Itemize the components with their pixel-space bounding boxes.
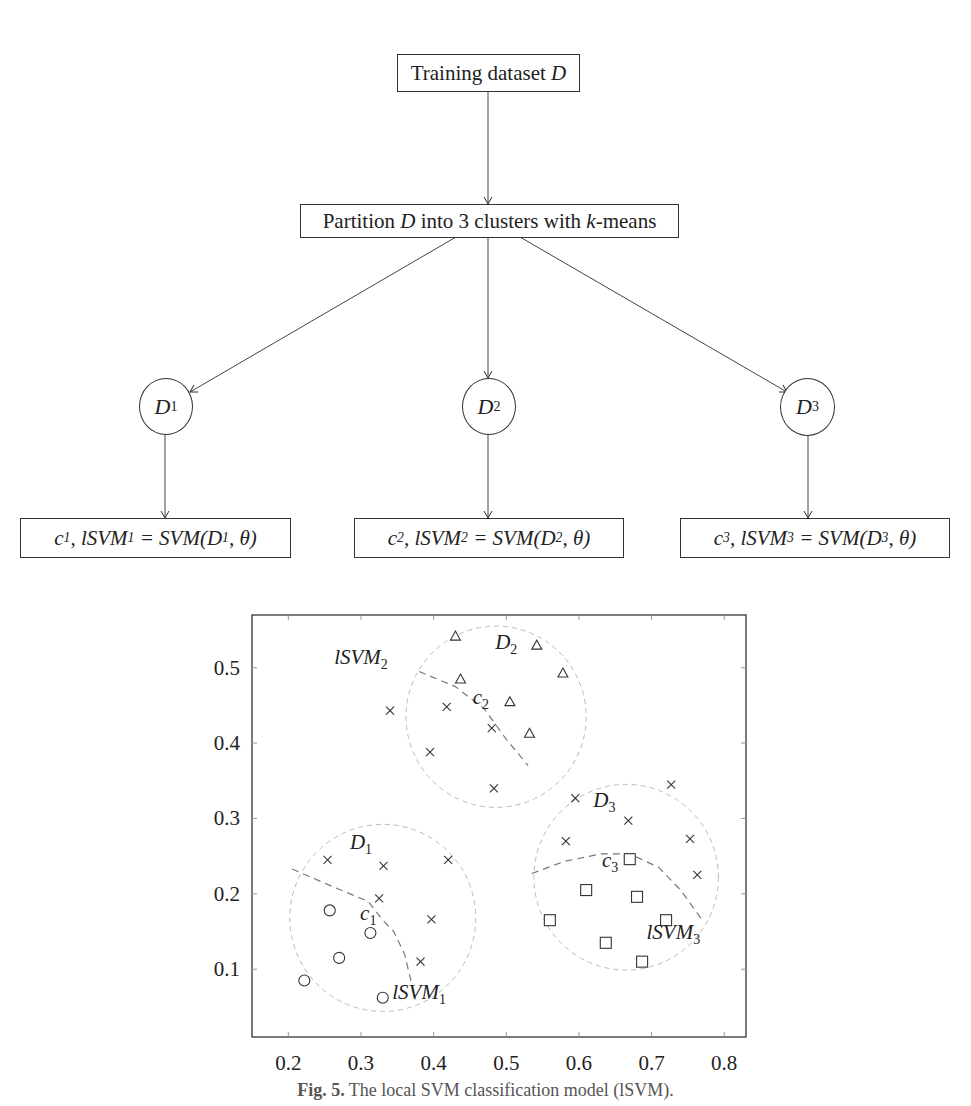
- y-tick-label: 0.2: [214, 882, 240, 906]
- plot-annotation: lSVM1: [392, 980, 446, 1007]
- plot-annotation: lSVM2: [334, 645, 388, 672]
- cross-marker: [375, 894, 383, 902]
- plot-annotation: c3: [602, 848, 618, 875]
- circle-marker: [324, 905, 335, 916]
- triangle-marker: [450, 631, 460, 640]
- lsvm-1-node: c1, lSVM1 = SVM(D1, θ): [20, 518, 291, 558]
- lsvm-separator-1: [292, 869, 416, 999]
- triangle-marker: [505, 697, 515, 706]
- cross-marker: [427, 915, 435, 923]
- cross-marker: [379, 862, 387, 870]
- cross-marker: [444, 856, 452, 864]
- cluster-boundary-3: [534, 784, 719, 970]
- plot-annotation: D1: [349, 830, 372, 857]
- triangle-marker: [455, 674, 465, 683]
- triangle-marker: [525, 728, 535, 737]
- square-marker: [581, 885, 592, 896]
- x-tick-label: 0.6: [566, 1051, 592, 1075]
- cluster-boundary-1: [290, 824, 476, 1011]
- cross-marker: [624, 817, 632, 825]
- x-tick-label: 0.5: [493, 1051, 519, 1075]
- cross-marker: [443, 703, 451, 711]
- lsvm-3-node: c3, lSVM3 = SVM(D3, θ): [680, 518, 950, 558]
- cross-marker: [667, 781, 675, 789]
- cross-marker: [693, 871, 701, 879]
- y-tick-label: 0.5: [214, 656, 240, 680]
- cluster-node-d2: D2: [462, 378, 516, 435]
- circle-marker: [365, 928, 376, 939]
- cross-marker: [417, 958, 425, 966]
- square-marker: [661, 915, 672, 926]
- lsvm-separator-3: [532, 854, 703, 920]
- cross-marker: [324, 856, 332, 864]
- plot-annotation: c1: [360, 901, 376, 928]
- training-dataset-node: Training dataset D: [397, 54, 580, 92]
- plot-annotation: D3: [592, 788, 615, 815]
- plot-annotation: c2: [473, 685, 489, 712]
- cross-marker: [490, 784, 498, 792]
- lsvm-separator-2: [419, 672, 528, 766]
- plot-frame: [252, 615, 746, 1037]
- plot-annotation: D2: [494, 630, 517, 657]
- figure-caption: Fig. 5. The local SVM classification mod…: [0, 1080, 971, 1101]
- cross-marker: [686, 835, 694, 843]
- circle-marker: [334, 952, 345, 963]
- cross-marker: [386, 707, 394, 715]
- y-tick-label: 0.3: [214, 806, 240, 830]
- cross-marker: [562, 837, 570, 845]
- square-marker: [637, 956, 648, 967]
- circle-marker: [377, 992, 388, 1003]
- square-marker: [544, 915, 555, 926]
- cross-marker: [571, 794, 579, 802]
- x-tick-label: 0.7: [638, 1051, 664, 1075]
- y-tick-label: 0.1: [214, 957, 240, 981]
- square-marker: [600, 937, 611, 948]
- cluster-boundary-2: [406, 626, 586, 807]
- triangle-marker: [532, 640, 542, 649]
- triangle-marker: [558, 668, 568, 677]
- x-tick-label: 0.8: [711, 1051, 737, 1075]
- x-tick-label: 0.2: [275, 1051, 301, 1075]
- square-marker: [632, 891, 643, 902]
- cross-marker: [426, 748, 434, 756]
- x-tick-label: 0.3: [348, 1051, 374, 1075]
- cluster-node-d1: D1: [139, 378, 193, 435]
- y-tick-label: 0.4: [214, 731, 241, 755]
- cross-marker: [488, 724, 496, 732]
- plot-annotation: lSVM3: [647, 920, 701, 947]
- lsvm-2-node: c2, lSVM2 = SVM(D2, θ): [354, 518, 624, 558]
- partition-node: Partition D into 3 clusters with k-means: [300, 204, 679, 238]
- circle-marker: [299, 975, 310, 986]
- training-dataset-label: Training dataset: [411, 61, 546, 86]
- square-marker: [624, 854, 635, 865]
- cluster-node-d3: D3: [780, 378, 835, 436]
- x-tick-label: 0.4: [420, 1051, 447, 1075]
